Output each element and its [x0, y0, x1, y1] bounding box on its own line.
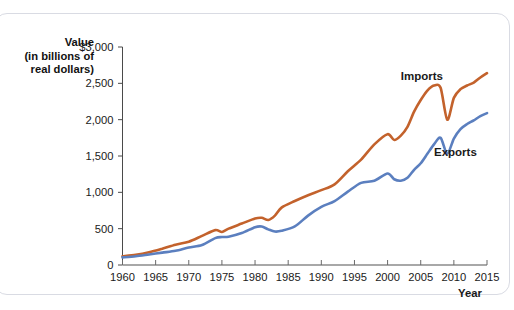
chart-figure: Value (in billions of real dollars) 0500… [0, 0, 514, 310]
x-tick-label: 1980 [243, 271, 268, 283]
y-tick-label: 2,000 [86, 114, 114, 126]
x-tick-label: 1975 [209, 271, 234, 283]
y-tick-label: 1,500 [86, 150, 114, 162]
x-axis: 1960196519701975198019851990199520002005… [110, 260, 499, 283]
chart-plot: 05001,0001,5002,0002,500$3,000 196019651… [0, 0, 514, 310]
y-tick-label: 0 [107, 259, 113, 271]
x-tick-label: 1995 [342, 271, 367, 283]
y-tick-label: 1,000 [86, 186, 114, 198]
series-line-exports [123, 113, 488, 257]
y-tick-label: 500 [95, 223, 114, 235]
y-axis: 05001,0001,5002,0002,500$3,000 [79, 41, 122, 271]
y-tick-label: $3,000 [79, 41, 113, 53]
x-tick-label: 2005 [408, 271, 433, 283]
y-tick-label: 2,500 [86, 77, 114, 89]
x-tick-label: 1960 [110, 271, 135, 283]
x-axis-title: Year [458, 287, 482, 299]
x-tick-label: 1965 [143, 271, 168, 283]
x-tick-label: 2015 [475, 271, 500, 283]
x-tick-label: 1985 [276, 271, 301, 283]
data-series-group [123, 73, 488, 257]
series-annotation-imports: Imports [401, 70, 443, 82]
x-tick-label: 1990 [309, 271, 334, 283]
x-tick-label: 2000 [375, 271, 400, 283]
x-tick-label: 1970 [176, 271, 201, 283]
x-tick-label: 2010 [441, 271, 466, 283]
series-line-imports [123, 73, 488, 256]
series-annotation-exports: Exports [434, 146, 477, 158]
